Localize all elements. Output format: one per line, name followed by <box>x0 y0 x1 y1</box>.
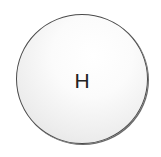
atom-symbol-label: H <box>17 70 147 91</box>
hydrogen-atom-sphere: H <box>16 14 148 144</box>
